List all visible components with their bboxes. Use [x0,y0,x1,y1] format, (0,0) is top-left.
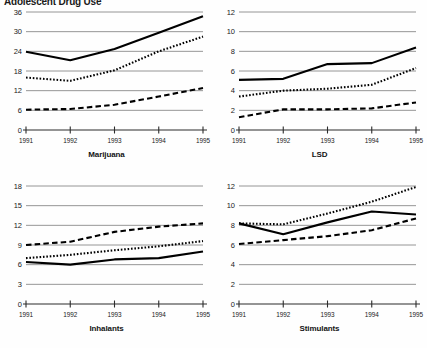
x-tick-label: 1992 [63,137,78,144]
series-line-dashed [239,102,416,117]
x-tick-label: 1994 [365,137,380,144]
y-tick-label: 3 [18,280,22,289]
x-tick-label: 1995 [196,311,211,318]
y-tick-label: 12 [227,182,235,191]
panel-caption-marijuana: Marijuana [0,150,213,159]
x-tick-label: 1992 [276,137,291,144]
y-tick-label: 10 [227,27,235,36]
x-tick-label: 1991 [19,137,34,144]
x-tick-label: 1995 [409,137,424,144]
chart-svg-inhalants: 036912151819911992199319941995 [0,174,213,348]
plot-area-marijuana: 06121824303619911992199319941995 [0,0,213,174]
x-tick-label: 1995 [409,311,424,318]
y-tick-label: 2 [231,280,235,289]
panel-stimulants: 02468101219911992199319941995 Stimulants [213,174,426,348]
y-tick-label: 4 [231,260,235,269]
x-tick-label: 1993 [107,137,122,144]
plot-area-stimulants: 02468101219911992199319941995 [213,174,426,348]
x-tick-label: 1993 [320,311,335,318]
y-tick-label: 12 [227,8,235,17]
y-tick-label: 6 [18,106,22,115]
panel-lsd: 02468101219911992199319941995 LSD [213,0,426,174]
y-tick-label: 8 [231,47,235,56]
x-tick-label: 1991 [232,311,247,318]
chart-svg-lsd: 02468101219911992199319941995 [213,0,426,174]
y-tick-label: 9 [18,241,22,250]
x-tick-label: 1992 [63,311,78,318]
x-tick-label: 1992 [276,311,291,318]
x-tick-label: 1994 [152,311,167,318]
y-tick-label: 0 [231,126,235,135]
plot-area-lsd: 02468101219911992199319941995 [213,0,426,174]
y-tick-label: 18 [14,182,22,191]
y-tick-label: 0 [18,300,22,309]
y-tick-label: 18 [14,67,22,76]
y-tick-label: 12 [14,221,22,230]
x-tick-label: 1994 [365,311,380,318]
panel-marijuana: 06121824303619911992199319941995 Marijua… [0,0,213,174]
y-tick-label: 2 [231,106,235,115]
series-line-solid [26,252,203,265]
chart-svg-stimulants: 02468101219911992199319941995 [213,174,426,348]
panel-caption-lsd: LSD [213,150,426,159]
x-tick-label: 1993 [107,311,122,318]
y-tick-label: 24 [14,47,22,56]
series-line-solid [26,16,203,60]
y-tick-label: 15 [14,201,22,210]
y-tick-label: 4 [231,86,235,95]
y-tick-label: 6 [231,67,235,76]
x-tick-label: 1991 [232,137,247,144]
panel-inhalants: 036912151819911992199319941995 Inhalants [0,174,213,348]
y-tick-label: 30 [14,27,22,36]
x-tick-label: 1991 [19,311,34,318]
series-line-dotted [239,68,416,97]
y-tick-label: 6 [18,260,22,269]
plot-area-inhalants: 036912151819911992199319941995 [0,174,213,348]
y-tick-label: 0 [18,126,22,135]
panel-caption-stimulants: Stimulants [213,324,426,333]
figure-adolescent-drug-use: Adolescent Drug Use 06121824303619911992… [0,0,427,348]
series-line-solid [239,212,416,235]
panel-caption-inhalants: Inhalants [0,324,213,333]
series-line-dotted [26,37,203,81]
y-tick-label: 12 [14,86,22,95]
series-line-solid [239,47,416,79]
y-tick-label: 10 [227,201,235,210]
y-tick-label: 36 [14,8,22,17]
x-tick-label: 1995 [196,137,211,144]
series-line-dashed [26,88,203,110]
y-tick-label: 0 [231,300,235,309]
y-tick-label: 8 [231,221,235,230]
y-tick-label: 6 [231,241,235,250]
x-tick-label: 1994 [152,137,167,144]
series-line-dashed [26,223,203,245]
chart-svg-marijuana: 06121824303619911992199319941995 [0,0,213,174]
x-tick-label: 1993 [320,137,335,144]
